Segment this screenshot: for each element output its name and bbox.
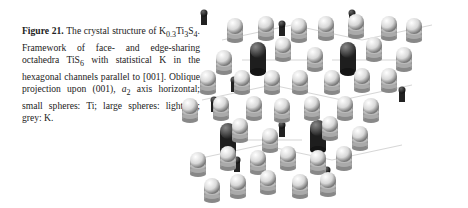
figure-label: Figure 21. <box>22 25 64 36</box>
figure-caption: Figure 21. The crystal structure of K0.3… <box>22 25 200 125</box>
caption-sub: 0.3 <box>166 30 176 39</box>
caption-text: The crystal structure of K <box>64 25 166 36</box>
crystal-structure-svg <box>182 0 468 208</box>
crystal-structure-image <box>182 0 468 208</box>
